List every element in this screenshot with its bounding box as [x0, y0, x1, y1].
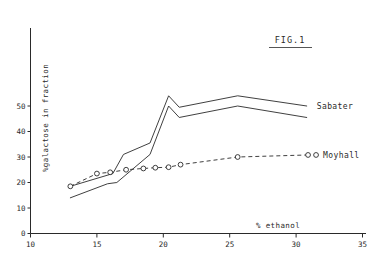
data-point-marker — [306, 153, 311, 158]
legend-marker-moyhall — [314, 153, 319, 158]
y-axis-title: %galactose in fraction — [41, 64, 50, 172]
data-point-marker — [141, 166, 146, 171]
figure-caption-group: FIG.1 — [269, 35, 312, 48]
y-tick-label: 0 — [21, 229, 26, 238]
x-tick-label: 30 — [292, 240, 302, 249]
series-label-sabater: Sabater — [317, 102, 354, 111]
axes-group — [31, 28, 367, 234]
x-tick-label: 25 — [225, 240, 234, 249]
y-tick-label: 50 — [16, 102, 26, 111]
data-point-marker — [68, 184, 73, 189]
series-line-moyhall — [70, 155, 308, 186]
y-axis-ticks: 01020304050 — [16, 102, 30, 239]
y-tick-label: 40 — [16, 127, 26, 136]
series-layer — [68, 96, 311, 198]
series-line-sabater-lower — [70, 106, 306, 198]
chart-canvas: 01020304050 101520253035 %galactose in f… — [0, 0, 386, 267]
data-point-marker — [153, 165, 158, 170]
data-point-marker — [178, 162, 183, 167]
x-tick-label: 15 — [92, 240, 101, 249]
data-point-marker — [108, 170, 113, 175]
x-tick-label: 10 — [26, 240, 36, 249]
data-point-marker — [124, 167, 129, 172]
data-point-marker — [166, 165, 171, 170]
data-point-marker — [95, 171, 100, 176]
x-tick-label: 35 — [358, 240, 367, 249]
y-tick-label: 10 — [16, 204, 26, 213]
series-label-moyhall: Moyhall — [323, 151, 360, 160]
data-point-marker — [235, 155, 240, 160]
x-axis-title: % ethanol — [256, 221, 300, 230]
series-labels-layer: SabaterMoyhall — [314, 102, 360, 160]
y-tick-label: 20 — [16, 178, 26, 187]
y-tick-label: 30 — [16, 153, 26, 162]
figure-caption: FIG.1 — [275, 35, 306, 45]
x-tick-label: 20 — [159, 240, 169, 249]
figure-container: 01020304050 101520253035 %galactose in f… — [0, 0, 386, 267]
x-axis-ticks: 101520253035 — [26, 234, 367, 249]
